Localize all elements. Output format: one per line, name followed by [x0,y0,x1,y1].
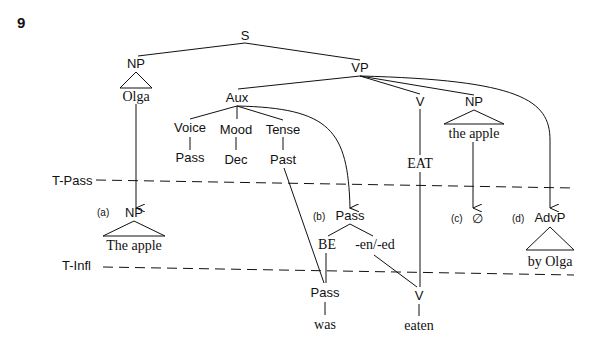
leaf-voice-pass: Pass [176,150,205,165]
edge-past-to-pass [284,168,324,283]
tag-a: (a) [97,207,109,218]
level-t-infl: T-Infl [62,258,91,273]
edge-s-vp [245,43,360,60]
node-v: V [416,94,425,109]
node-c-null: ∅ [472,211,483,226]
edge-pass-be [328,224,350,236]
tag-b: (b) [313,211,325,222]
leaf-dec: Dec [224,152,248,167]
edge-aux-tense [237,106,283,120]
tag-c: (c) [451,213,463,224]
leaf-eat: EAT [407,156,433,171]
leaf-the-apple-a: The apple [106,238,162,253]
leaf-the-apple: the apple [449,126,500,141]
triangle-d [526,227,574,250]
triangle-a [103,221,165,236]
node-tense: Tense [266,122,301,137]
triangle-object [444,110,504,124]
leaf-olga: Olga [122,89,150,104]
leaf-by-olga: by Olga [528,254,574,269]
leaf-was: was [314,317,336,332]
example-number: 9 [17,14,25,31]
node-object-np: NP [465,94,483,109]
node-voice: Voice [174,120,206,135]
node-b-pass: Pass [336,208,365,223]
node-s: S [241,28,250,43]
dashed-line-t-infl [103,267,574,275]
node-aux: Aux [226,90,249,105]
leaf-past: Past [270,152,296,167]
leaf-be: BE [318,237,336,252]
node-surface-v: V [415,288,424,303]
triangle-subject [120,72,152,88]
level-t-pass: T-Pass [52,173,93,188]
node-vp: VP [351,60,368,75]
node-subject-np: NP [127,56,145,71]
edge-s-np [138,43,245,56]
node-surface-pass: Pass [311,285,340,300]
syntax-tree-diagram: 9 S NP Olga VP Aux Voice Mood Tense Pass… [0,0,594,353]
leaf-eaten: eaten [404,318,434,333]
node-d-advp: AdvP [534,210,565,225]
edge-pass-en [350,224,373,236]
node-a-np: NP [125,205,143,220]
leaf-en-ed: -en/-ed [355,237,395,252]
edge-en-to-v [374,255,417,287]
arrow-vp-to-d [360,76,550,208]
edge-vp-aux [238,76,360,89]
tag-d: (d) [512,213,524,224]
edge-aux-voice [190,106,237,119]
dashed-line-t-pass [96,180,574,188]
node-mood: Mood [220,122,253,137]
